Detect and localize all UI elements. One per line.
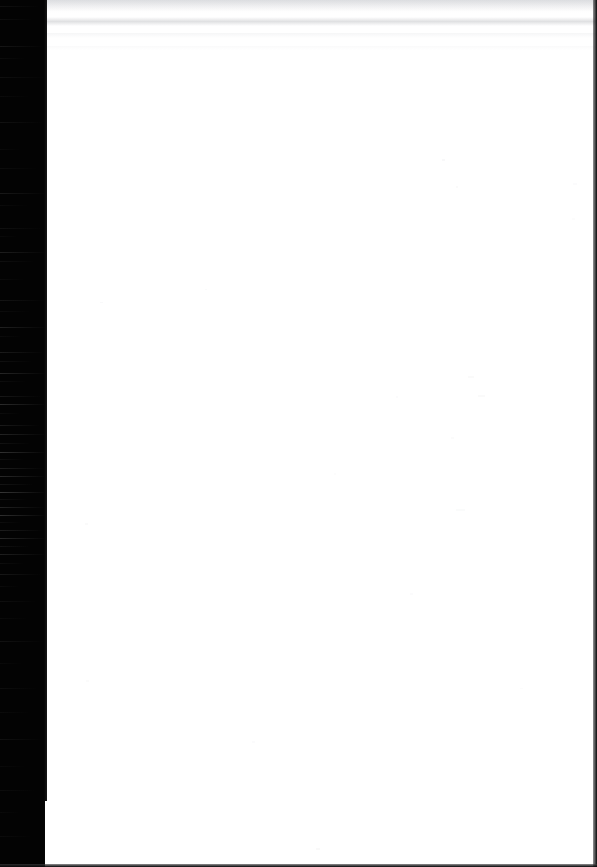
scanner-streak: [0, 352, 44, 353]
scanner-streak: [0, 663, 22, 664]
scanner-streak: [0, 468, 44, 469]
scanner-band-bottom-trim: [45, 801, 49, 867]
scanner-streak: [0, 168, 38, 169]
scanner-streak: [0, 300, 45, 301]
scanner-streak: [0, 381, 26, 382]
scanner-streak: [0, 77, 46, 78]
scanner-streak: [0, 574, 42, 575]
scanner-streak: [0, 96, 30, 97]
scanner-streak: [0, 193, 47, 194]
scanner-streak: [0, 538, 47, 539]
scanner-streak: [0, 205, 28, 206]
scanner-streak: [0, 452, 47, 453]
page-body-text: [70, 70, 570, 830]
scanner-streak: [0, 373, 47, 374]
scanner-streak: [0, 641, 44, 642]
scanner-streak: [0, 812, 20, 813]
scanner-streak: [0, 563, 25, 564]
scanner-streak: [0, 586, 19, 587]
scanner-streak: [0, 618, 28, 619]
scanner-streak: [0, 46, 44, 47]
scanner-streak: [0, 601, 36, 602]
scanner-streak: [0, 413, 20, 414]
scanner-streak: [0, 492, 47, 493]
scanner-streak: [0, 515, 47, 516]
scanner-streak: [0, 261, 35, 262]
scanner-streak: [0, 688, 38, 689]
scanner-streak: [0, 311, 30, 312]
scanner-streak: [0, 522, 21, 523]
scanner-streak: [0, 19, 33, 20]
scanner-streak: [0, 228, 43, 229]
scanner-streak: [0, 766, 26, 767]
scanner-streak: [0, 252, 47, 253]
scanned-page-canvas: [0, 0, 597, 867]
scanner-streak: [0, 425, 40, 426]
scanner-streak: [0, 499, 27, 500]
scanner-streak: [0, 476, 47, 477]
scanner-streak: [0, 122, 44, 123]
scanner-streak: [0, 279, 24, 280]
scanner-streak: [0, 336, 22, 337]
scanner-streak: [0, 6, 40, 7]
scanner-streak: [0, 546, 30, 547]
scanner-streak: [0, 236, 18, 237]
scanner-streak: [0, 507, 45, 508]
scanner-streak: [0, 58, 25, 59]
scanner-streak: [0, 149, 20, 150]
scanner-streak: [0, 484, 34, 485]
scanner-streak: [0, 836, 32, 837]
scanner-streak: [0, 459, 24, 460]
scanner-streak: [0, 443, 31, 444]
scanner-black-band: [0, 0, 47, 867]
scanner-streak: [0, 554, 47, 555]
scanner-streak: [0, 404, 47, 405]
scanner-streak: [0, 361, 33, 362]
scanner-streak: [0, 396, 42, 397]
scanner-streak: [0, 434, 47, 435]
scanner-streak: [0, 712, 30, 713]
scanner-streak: [0, 790, 35, 791]
scanner-streak: [0, 739, 43, 740]
scanner-streak: [0, 327, 47, 328]
page-right-dark-edge: [593, 0, 597, 867]
scanner-streak: [0, 530, 43, 531]
